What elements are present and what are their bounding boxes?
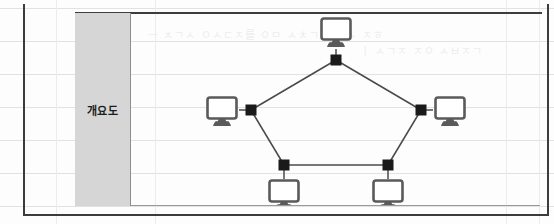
monitor-icon[interactable] (374, 181, 403, 206)
connector-node-right[interactable] (416, 105, 427, 116)
connector-node-top[interactable] (331, 55, 342, 66)
table-row-bottom-rule (106, 205, 540, 206)
network-topology-diagram (131, 13, 542, 205)
connector-node-left[interactable] (246, 105, 257, 116)
monitor-icon[interactable] (322, 19, 351, 47)
link-right-bottomright (388, 110, 421, 165)
monitor-icon[interactable] (208, 98, 237, 126)
connector-node-bottom-left[interactable] (279, 160, 290, 171)
monitor-icon[interactable] (436, 98, 465, 126)
topology-stubs (239, 49, 433, 179)
topology-svg (131, 13, 542, 205)
link-top-left (251, 60, 336, 110)
row-label-cell: 개요도 (75, 13, 131, 206)
link-top-right (336, 60, 421, 110)
row-label-text: 개요도 (87, 102, 119, 118)
monitor-icon[interactable] (270, 181, 299, 206)
scanned-page: ㅡ ㅊㄱㅅ ㅇㅅㄷㅈ를 ㅇㅁ ㅅㅊㄱㄹ 이ㅅ ㅈㅎ ㅣ ㅅㄱㅈ ㅈㅇ ㅅㅂㅈㄱ … (0, 0, 554, 224)
link-left-bottomleft (251, 110, 284, 165)
topology-connectors (246, 55, 427, 171)
connector-node-bottom-right[interactable] (383, 160, 394, 171)
topology-links (251, 60, 421, 165)
